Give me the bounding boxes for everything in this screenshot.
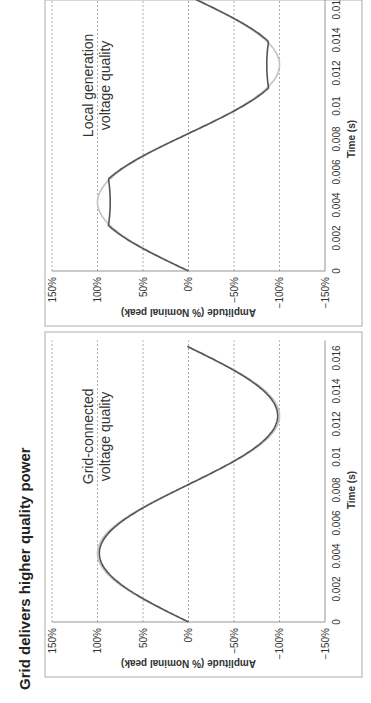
y-tick-label: 150% — [47, 628, 58, 654]
x-tick-label: 0.002 — [331, 576, 342, 601]
x-tick-label: 0.012 — [331, 60, 342, 85]
panels: 150%100%50%0%−50%−100%−150%00.0020.0040.… — [45, 0, 362, 677]
x-tick-label: 0 — [331, 619, 342, 625]
x-tick-label: 0.016 — [331, 345, 342, 370]
panel-border — [45, 332, 362, 677]
panel-annotation-line1: Grid-connected — [80, 389, 96, 485]
x-tick-label: 0.004 — [331, 192, 342, 217]
x-tick-label: 0.002 — [331, 225, 342, 250]
x-tick-label: 0.008 — [331, 477, 342, 502]
y-axis-label: Amplitude (% Nominal peak) — [121, 658, 256, 669]
x-tick-label: 0.006 — [331, 159, 342, 184]
x-tick-label: 0 — [331, 268, 342, 274]
x-tick-label: 0.01 — [331, 447, 342, 467]
panel-local: 150%100%50%0%−50%−100%−150%00.0020.0040.… — [45, 0, 362, 326]
y-tick-label: 0% — [183, 277, 194, 292]
y-tick-label: −100% — [274, 628, 285, 660]
x-axis-label: Time (s) — [346, 471, 357, 509]
x-tick-label: 0.012 — [331, 411, 342, 436]
panel-annotation-line1: Local generation — [80, 34, 96, 138]
y-tick-label: 50% — [138, 277, 149, 297]
chart-figure: Grid delivers higher quality power 150%1… — [0, 0, 371, 703]
x-tick-label: 0.004 — [331, 543, 342, 568]
panel-annotation-line2: voltage quality — [97, 41, 113, 131]
panel-annotation-line2: voltage quality — [97, 392, 113, 482]
y-tick-label: 100% — [92, 277, 103, 303]
y-tick-label: 50% — [138, 628, 149, 648]
y-tick-label: 0% — [183, 628, 194, 643]
x-tick-label: 0.014 — [331, 378, 342, 403]
panel-grid: 150%100%50%0%−50%−100%−150%00.0020.0040.… — [45, 332, 362, 677]
y-tick-label: −150% — [320, 277, 331, 309]
y-tick-label: −50% — [229, 277, 240, 303]
x-tick-label: 0.016 — [331, 0, 342, 20]
y-tick-label: 100% — [92, 628, 103, 654]
y-axis-label: Amplitude (% Nominal peak) — [121, 307, 256, 318]
y-tick-label: −150% — [320, 628, 331, 660]
y-tick-label: −50% — [229, 628, 240, 654]
x-tick-label: 0.008 — [331, 126, 342, 151]
y-tick-label: 150% — [47, 277, 58, 303]
x-tick-label: 0.01 — [331, 96, 342, 116]
figure-svg: Grid delivers higher quality power 150%1… — [0, 0, 371, 703]
y-tick-label: −100% — [274, 277, 285, 309]
x-tick-label: 0.006 — [331, 510, 342, 535]
x-tick-label: 0.014 — [331, 27, 342, 52]
figure-title: Grid delivers higher quality power — [16, 447, 33, 690]
x-axis-label: Time (s) — [346, 120, 357, 158]
